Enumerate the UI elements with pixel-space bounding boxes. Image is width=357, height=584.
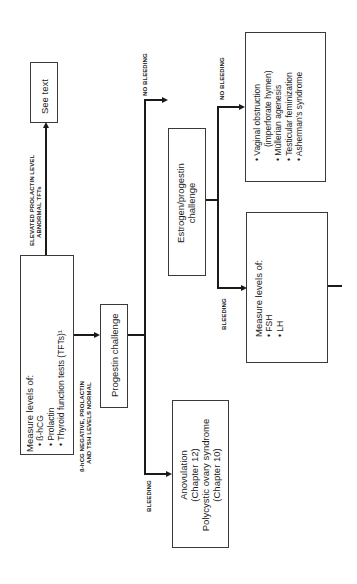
edge-bleeding-2-line — [217, 287, 242, 289]
anovulation-line: (Chapter 12) — [189, 406, 200, 544]
node-outflow-causes: • Vaginal obstruction (imperforate hymen… — [245, 32, 326, 182]
edge-bleeding-2-label: BLEEDING — [221, 298, 228, 330]
edge-normal-line-2: AND TSH LEVELS NORMAL — [86, 381, 93, 472]
measure-initial-item: • Thyroid function tests (TFTs)¹ — [56, 330, 67, 452]
measure-fsh-lh-item: • FSH — [264, 260, 275, 337]
measure-fsh-lh-content: Measure levels of: • FSH • LH — [253, 260, 285, 337]
anovulation-line: Anovulation — [178, 406, 189, 544]
outflow-cause-item: (imperforate hymen) — [263, 70, 274, 161]
estrogen-progestin-line: Estrogen/progestin — [175, 135, 186, 271]
estrogen-progestin-content: Estrogen/progestin challenge — [175, 135, 197, 271]
outflow-cause-item: • Asherman's syndrome — [294, 70, 305, 161]
node-estrogen-progestin: Estrogen/progestin challenge — [168, 128, 206, 276]
node-measure-fsh-lh: Measure levels of: • FSH • LH — [246, 212, 328, 363]
anovulation-line: (Chapter 10) — [211, 406, 222, 544]
measure-fsh-lh-item: • LH — [275, 260, 286, 337]
edge-no-bleeding-2-label: NO BLEEDING — [219, 57, 226, 100]
node-measure-initial: Measure levels of: • ß-hCG • Prolactin •… — [20, 255, 74, 455]
edge-elevated-line-1: ELEVATED PROLACTIN LEVEL — [29, 155, 36, 246]
edge-progestin-spine — [144, 99, 146, 475]
arrow-right-icon — [162, 97, 168, 103]
edge-elevated-line — [45, 128, 47, 255]
edge-no-bleeding-1-label: NO BLEEDING — [142, 53, 149, 96]
arrow-up-icon — [43, 122, 49, 128]
edge-elevated-line-2: ABNORMAL TFTs — [36, 155, 43, 246]
outflow-causes-content: • Vaginal obstruction (imperforate hymen… — [252, 70, 305, 161]
estrogen-progestin-line: challenge — [186, 135, 197, 271]
anovulation-line: Polycystic ovary syndrome — [200, 406, 211, 544]
progestin-label: Progestin challenge — [109, 314, 120, 397]
edge-no-bleeding-2-line — [217, 106, 240, 108]
edge-fsh-lh-out — [328, 285, 342, 287]
edge-normal-line — [74, 334, 95, 336]
edge-no-bleeding-1-line — [144, 99, 163, 101]
edge-normal-line-1: ß-hCG NEGATIVE, PROLACTIN — [79, 381, 86, 472]
node-see-text: See text — [30, 62, 58, 123]
outflow-cause-item: • Müllerian agenesis — [273, 70, 284, 161]
node-progestin: Progestin challenge — [100, 304, 128, 408]
outflow-cause-item: • Testicular feminization — [284, 70, 295, 161]
edge-bleeding-1-label: BLEEDING — [146, 480, 153, 512]
edge-elevated-label: ELEVATED PROLACTIN LEVEL ABNORMAL TFTs — [29, 155, 43, 246]
measure-initial-title: Measure levels of: — [24, 330, 35, 452]
edge-normal-label: ß-hCG NEGATIVE, PROLACTIN AND TSH LEVELS… — [79, 381, 93, 472]
outflow-cause-item: • Vaginal obstruction — [252, 70, 263, 161]
edge-bleeding-1-line — [144, 473, 167, 475]
anovulation-content: Anovulation (Chapter 12) Polycystic ovar… — [178, 406, 222, 544]
measure-initial-item: • Prolactin — [46, 330, 57, 452]
edge-ep-spine — [217, 106, 219, 289]
node-anovulation: Anovulation (Chapter 12) Polycystic ovar… — [172, 400, 229, 548]
measure-initial-content: Measure levels of: • ß-hCG • Prolactin •… — [24, 330, 67, 452]
see-text-label: See text — [39, 79, 50, 114]
measure-fsh-lh-title: Measure levels of: — [253, 260, 264, 337]
measure-initial-item: • ß-hCG — [35, 330, 46, 452]
